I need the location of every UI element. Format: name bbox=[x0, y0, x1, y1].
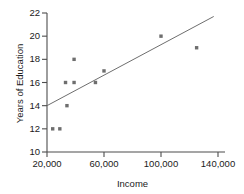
x-tick-label: 20,000 bbox=[17, 158, 77, 169]
data-point bbox=[72, 81, 75, 84]
x-tick-label: 140,000 bbox=[188, 158, 244, 169]
tick-marks bbox=[42, 13, 218, 157]
data-point bbox=[94, 81, 97, 84]
x-tick-label: 60,000 bbox=[74, 158, 134, 169]
data-point bbox=[58, 127, 61, 130]
data-point-group bbox=[51, 34, 198, 130]
data-point bbox=[65, 104, 68, 107]
trend-line-group bbox=[47, 16, 214, 105]
x-axis-title: Income bbox=[47, 178, 218, 189]
data-point bbox=[51, 127, 54, 130]
data-point bbox=[195, 46, 198, 49]
regression-line bbox=[47, 16, 214, 105]
x-tick-label: 100,000 bbox=[131, 158, 191, 169]
data-point bbox=[159, 34, 162, 37]
data-point bbox=[64, 81, 67, 84]
data-point bbox=[102, 69, 105, 72]
scatter-chart: Years of Education 10121416182022 20,000… bbox=[0, 0, 244, 194]
data-point bbox=[72, 58, 75, 61]
